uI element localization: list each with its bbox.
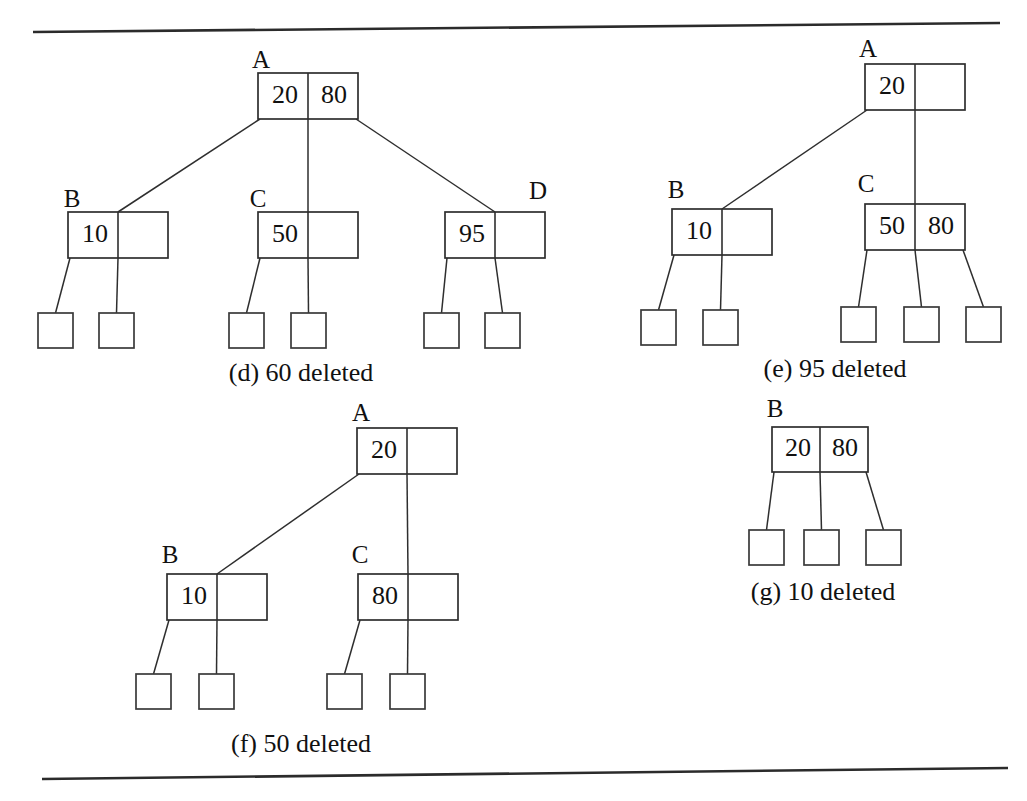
node-key-A-1: 20: [272, 80, 298, 109]
node-label-A: A: [859, 35, 877, 62]
leaf-node: [841, 307, 876, 342]
leaf-node: [749, 530, 784, 565]
leaf-node: [424, 313, 459, 348]
leaf-node: [99, 313, 134, 348]
node-label-C: C: [858, 170, 875, 197]
caption-f: (f) 50 deleted: [231, 729, 371, 758]
leaf-node: [229, 313, 264, 348]
node-key-B-1: 20: [785, 433, 811, 462]
leaf-node: [327, 674, 362, 709]
figure-canvas: 2080A10B50C95D(d) 60 deleted20A10B5080C(…: [0, 0, 1027, 801]
node-label-B: B: [162, 541, 179, 568]
caption-e: (e) 95 deleted: [764, 354, 907, 383]
node-key-C-1: 50: [879, 211, 905, 240]
node-label-C: C: [352, 541, 369, 568]
node-key-C-1: 80: [372, 581, 398, 610]
leaf-box: [390, 674, 425, 709]
leaf-box: [38, 313, 73, 348]
node-key-A-2: 80: [321, 80, 347, 109]
leaf-node: [641, 310, 676, 345]
node-key-B-2: 80: [832, 433, 858, 462]
edge-C-to-child-2: [308, 258, 309, 313]
node-key-B-1: 10: [181, 581, 207, 610]
node-key-C-1: 50: [272, 219, 298, 248]
leaf-node: [38, 313, 73, 348]
edge-C-to-child-2: [408, 620, 409, 674]
leaf-node: [966, 307, 1001, 342]
leaf-box: [641, 310, 676, 345]
leaf-box: [904, 307, 939, 342]
leaf-box: [749, 530, 784, 565]
leaf-box: [136, 674, 171, 709]
caption-d: (d) 60 deleted: [229, 358, 373, 387]
leaf-node: [136, 674, 171, 709]
leaf-node: [866, 530, 901, 565]
leaf-node: [904, 307, 939, 342]
leaf-box: [841, 307, 876, 342]
node-label-A: A: [252, 46, 270, 73]
node-label-D: D: [529, 177, 547, 204]
node-key-C-2: 80: [928, 211, 954, 240]
leaf-box: [199, 674, 234, 709]
leaf-box: [327, 674, 362, 709]
leaf-box: [291, 313, 326, 348]
leaf-box: [485, 313, 520, 348]
leaf-node: [390, 674, 425, 709]
btree-figure: 2080A10B50C95D(d) 60 deleted20A10B5080C(…: [0, 0, 1027, 801]
node-key-D-1: 95: [459, 219, 485, 248]
leaf-box: [229, 313, 264, 348]
leaf-box: [866, 530, 901, 565]
node-label-B: B: [767, 395, 784, 422]
leaf-box: [424, 313, 459, 348]
node-key-B-1: 10: [686, 216, 712, 245]
node-label-B: B: [64, 185, 81, 212]
edge-A-to-child-2: [407, 474, 408, 574]
leaf-box: [99, 313, 134, 348]
edge-B-to-child-2: [217, 620, 218, 674]
leaf-box: [804, 530, 839, 565]
node-label-A: A: [352, 399, 370, 426]
leaf-node: [703, 310, 738, 345]
node-label-B: B: [668, 176, 685, 203]
leaf-node: [804, 530, 839, 565]
leaf-node: [485, 313, 520, 348]
node-key-A-1: 20: [879, 71, 905, 100]
leaf-box: [966, 307, 1001, 342]
node-key-B-1: 10: [82, 219, 108, 248]
leaf-node: [199, 674, 234, 709]
node-label-C: C: [250, 185, 267, 212]
node-key-A-1: 20: [371, 435, 397, 464]
caption-g: (g) 10 deleted: [751, 577, 895, 606]
leaf-box: [703, 310, 738, 345]
leaf-node: [291, 313, 326, 348]
